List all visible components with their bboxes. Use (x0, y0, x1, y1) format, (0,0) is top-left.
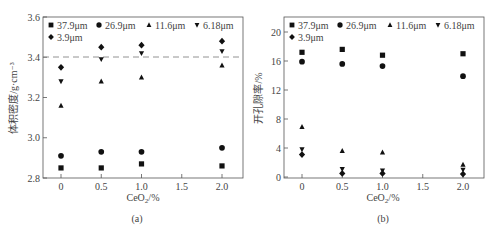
legend-label: 37.9μm (57, 20, 88, 31)
y-axis-a: 2.83.03.23.43.6 (28, 12, 48, 184)
data-point-triangle-up (460, 162, 465, 167)
data-point-circle (460, 73, 466, 79)
legend-a: 37.9μm26.9μm11.6μm6.18μm3.9μm (48, 20, 234, 43)
data-point-square (139, 161, 144, 166)
data-point-triangle-up (380, 149, 385, 154)
legend-label: 11.6μm (155, 20, 185, 31)
y-tick-label: 3.2 (28, 92, 41, 103)
legend-marker-square (290, 23, 295, 28)
data-point-diamond (379, 170, 385, 177)
x-tick-label: 2.0 (457, 181, 470, 192)
data-point-square (99, 165, 104, 170)
data-point-square (58, 165, 63, 170)
data-point-triangle-up (299, 124, 304, 129)
data-point-circle (339, 61, 345, 67)
data-point-triangle-up (340, 148, 345, 153)
y-tick-label: 3.0 (28, 132, 41, 143)
y-tick-label: 0 (276, 172, 281, 183)
data-points-b (299, 47, 466, 178)
data-point-square (219, 163, 224, 168)
data-point-diamond (98, 44, 104, 51)
y-tick-label: 3.6 (28, 12, 41, 23)
x-axis-a: 00.51.01.52.0 (59, 174, 229, 192)
data-point-diamond (219, 38, 225, 45)
data-point-triangle-down (58, 79, 63, 84)
legend-marker-triangle-up (388, 22, 393, 27)
data-point-diamond (58, 64, 64, 71)
y-tick-label: 12 (271, 85, 281, 96)
data-points-a (58, 38, 225, 171)
legend-marker-triangle-down (195, 23, 200, 28)
legend-b: 37.9μm26.9μm11.6μm6.18μm3.9μm (289, 20, 475, 43)
legend-label: 26.9μm (105, 20, 136, 31)
x-tick-label: 1.0 (376, 181, 389, 192)
y-tick-label: 4 (276, 143, 281, 154)
y-tick-label: 8 (276, 114, 281, 125)
x-tick-label: 0 (59, 181, 64, 192)
data-point-triangle-up (219, 62, 224, 67)
data-point-triangle-down (99, 57, 104, 62)
x-axis-b: 00.51.01.52.0 (300, 174, 470, 192)
data-point-square (460, 51, 465, 56)
data-point-triangle-up (139, 75, 144, 80)
y-tick-label: 2.8 (28, 173, 41, 184)
legend-label: 37.9μm (298, 20, 329, 31)
legend-marker-circle (337, 22, 342, 27)
data-point-triangle-up (99, 79, 104, 84)
caption-b: (b) (377, 213, 389, 225)
data-point-square (299, 50, 304, 55)
legend-label: 3.9μm (57, 32, 83, 43)
y-axis-label-b: 开孔隙率/% (252, 72, 264, 123)
data-point-circle (139, 149, 145, 155)
legend-label: 6.18μm (444, 20, 475, 31)
x-tick-label: 1.5 (417, 181, 430, 192)
data-point-circle (58, 153, 64, 159)
chart-a: 2.83.03.23.43.6 00.51.01.52.0 37.9μm26.9… (0, 0, 248, 235)
data-point-square (340, 47, 345, 52)
x-axis-label-b: CeO2/% (367, 192, 400, 205)
data-point-circle (380, 63, 386, 69)
data-point-diamond (339, 170, 345, 177)
x-tick-label: 2.0 (216, 181, 229, 192)
data-point-circle (219, 145, 225, 151)
data-point-circle (98, 149, 104, 155)
legend-marker-triangle-up (147, 22, 152, 27)
x-tick-label: 1.0 (135, 181, 148, 192)
data-point-triangle-down (139, 51, 144, 56)
legend-label: 6.18μm (203, 20, 234, 31)
legend-marker-square (49, 23, 54, 28)
legend-label: 26.9μm (346, 20, 377, 31)
y-tick-label: 3.4 (28, 52, 41, 63)
legend-label: 3.9μm (298, 32, 324, 43)
y-axis-label-a: 体积密度/g·cm⁻³ (7, 62, 19, 134)
legend-marker-triangle-down (436, 23, 441, 28)
legend-marker-diamond (48, 34, 54, 40)
data-point-diamond (460, 171, 466, 178)
x-tick-label: 0 (300, 181, 305, 192)
caption-a: (a) (131, 213, 142, 225)
x-tick-label: 0.5 (95, 181, 108, 192)
data-point-square (380, 53, 385, 58)
data-point-circle (299, 59, 305, 65)
data-point-diamond (299, 151, 305, 158)
y-axis-b: 048121620 (271, 27, 288, 183)
x-tick-label: 1.5 (176, 181, 189, 192)
legend-marker-diamond (289, 34, 295, 40)
legend-marker-circle (96, 22, 101, 27)
y-tick-label: 20 (271, 27, 281, 38)
data-point-triangle-down (219, 49, 224, 54)
data-point-diamond (138, 42, 144, 49)
y-tick-label: 16 (271, 56, 281, 67)
x-tick-label: 0.5 (336, 181, 349, 192)
x-axis-label-a: CeO2/% (127, 192, 160, 205)
chart-b: 048121620 00.51.01.52.0 37.9μm26.9μm11.6… (248, 0, 496, 235)
data-point-triangle-up (58, 103, 63, 108)
legend-label: 11.6μm (396, 20, 426, 31)
